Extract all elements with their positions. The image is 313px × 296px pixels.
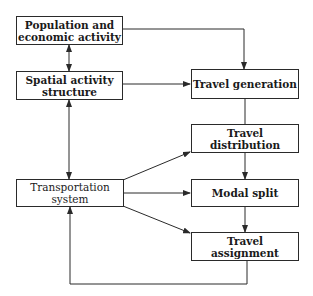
edge-transport-assignment (123, 206, 190, 233)
node-label: Population and economic activity (18, 19, 121, 43)
node-label: Travel assignment (192, 235, 298, 259)
node-spatial-activity-structure: Spatial activity structure (16, 71, 123, 100)
node-modal-split: Modal split (191, 179, 299, 207)
node-travel-distribution: Travel distribution (191, 124, 299, 153)
node-travel-generation: Travel generation (191, 69, 299, 99)
node-travel-assignment: Travel assignment (191, 232, 299, 261)
node-label: Spatial activity structure (25, 74, 113, 98)
node-population-economic-activity: Population and economic activity (16, 16, 123, 45)
node-label: Travel distribution (192, 127, 298, 151)
node-label: Travel generation (193, 78, 297, 90)
node-label: Modal split (212, 187, 279, 199)
node-transportation-system: Transportation system (16, 179, 124, 207)
edge-population-generation (122, 29, 244, 69)
node-label: Transportation system (30, 181, 110, 205)
transportation-planning-flowchart: Population and economic activity Spatial… (0, 0, 313, 296)
edge-transport-distribution (123, 152, 190, 180)
